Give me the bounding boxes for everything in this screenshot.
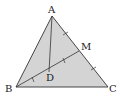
point-label-m: M [81,41,91,52]
geometry-figure: A B C M D [0,0,120,109]
point-label-c: C [109,83,117,94]
point-label-d: D [46,72,54,83]
point-label-a: A [47,4,56,15]
triangle-abc [16,16,108,87]
point-label-b: B [5,83,12,94]
